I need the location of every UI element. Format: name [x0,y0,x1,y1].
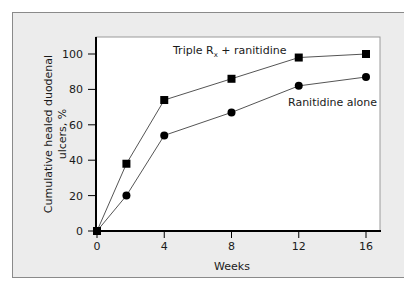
square-marker [362,50,370,58]
y-tick-label: 80 [69,83,83,96]
y-tick-label: 0 [76,225,83,238]
square-marker [228,75,236,83]
series-label-ranitidine: Ranitidine alone [288,96,377,109]
y-axis-title-line1: Cumulative healed duodenal [42,55,55,213]
series-label-triple-main: Triple R [172,44,214,57]
y-tick-label: 100 [62,48,83,61]
y-axis-title-line2: ulcers, % [56,109,69,160]
y-tick-label: 40 [69,154,83,167]
square-marker [122,160,130,168]
y-axis-title: Cumulative healed duodenal ulcers, % [42,55,69,213]
series-label-triple: Triple Rx + ranitidine [172,44,287,59]
x-tick-label: 16 [359,240,373,253]
circle-marker [228,108,236,116]
x-tick-label: 0 [94,240,101,253]
x-ticks: 0481216 [94,231,374,253]
series-label-triple-rest: + ranitidine [218,44,287,57]
circle-marker [122,192,130,200]
square-marker [160,96,168,104]
circle-marker [295,82,303,90]
x-tick-label: 4 [161,240,168,253]
circle-marker [160,131,168,139]
x-tick-label: 8 [228,240,235,253]
plot-area [96,37,380,231]
y-tick-label: 20 [69,190,83,203]
y-tick-label: 60 [69,119,83,132]
x-tick-label: 12 [292,240,306,253]
square-marker [295,54,303,62]
x-axis-title: Weeks [214,260,250,273]
circle-marker [362,73,370,81]
